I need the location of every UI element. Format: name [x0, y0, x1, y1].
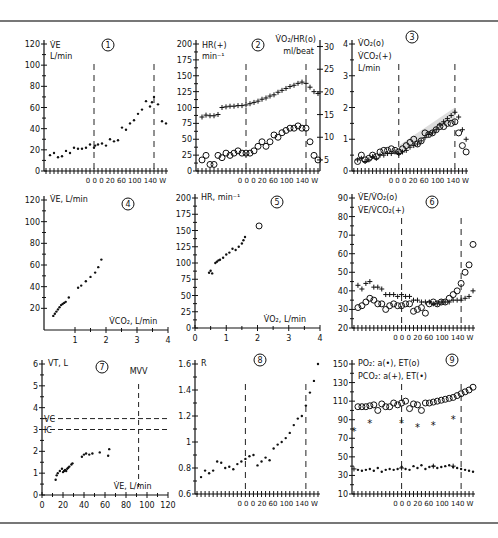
y-axis-unit: L/min: [358, 64, 380, 73]
panel-3: 012340 0 0 20 60 100 140 WV̇O₂(o)V̇CO₂(+…: [343, 31, 469, 185]
y-tick-label: 150: [333, 360, 348, 369]
y-tick-label: 0.6: [178, 490, 191, 499]
y-tick-label: 50: [182, 135, 192, 144]
y-tick-label: 25: [181, 308, 191, 317]
x-axis-workload-label: 0 0 0 20 60 100 140 W: [238, 177, 318, 185]
y-tick-label: 100: [25, 61, 40, 70]
x-tick-label: 1: [224, 334, 229, 343]
y-tick-label: 60: [30, 261, 40, 270]
x-axis-workload-label: 0 0 0 20 60 100 140 W: [393, 334, 473, 342]
y-axis-title: V̇O₂(o): [358, 38, 384, 48]
panel-2: 02550751001251501752000 0 0 20 60 100 14…: [177, 34, 334, 185]
y-tick-label: 100: [176, 259, 191, 268]
x-axis-workload-label: 0 0 0 20 60 100 140 W: [393, 500, 473, 508]
panel-number: 3: [409, 33, 414, 42]
panel-number: 7: [99, 363, 104, 372]
y-tick-label: 100: [177, 104, 192, 113]
panel-7: 0123456020406080100120V̇E, L/minVCICMVVV…: [33, 359, 176, 510]
star-marker: *: [451, 414, 456, 425]
y-tick-label: 0: [33, 491, 38, 500]
y-axis-title: HR, min⁻¹: [201, 193, 240, 202]
y-tick-label: 4: [343, 40, 348, 49]
x-tick-label: 60: [100, 501, 110, 510]
y-tick-label: 60: [338, 250, 348, 259]
x-axis-label: V̇O₂, L/min: [264, 314, 306, 324]
panel-8: 0.60.811.21.41.60 0 0 20 60 100 140 WR8: [178, 354, 320, 508]
y-tick-label: 130: [333, 379, 348, 388]
y-tick-label: 60: [30, 104, 40, 113]
y-tick-label: 50: [338, 268, 348, 277]
right-tick-label: 30: [324, 43, 334, 52]
y-tick-label: 200: [177, 40, 192, 49]
y-tick-label: 40: [30, 283, 40, 292]
ref-label-vc: VC: [44, 415, 55, 424]
y-axis-title: V̇E, L/min: [50, 194, 88, 204]
y-tick-label: 75: [181, 275, 191, 284]
y-tick-label: 70: [338, 231, 348, 240]
y-axis-title: V̇E: [50, 40, 61, 50]
y-axis-title: PO₂: a(•), ET(o): [358, 359, 420, 368]
panel-4: 204060801001201234V̇CO₂, L/minV̇E, L/min…: [25, 194, 171, 345]
y-axis-unit: min⁻¹: [202, 52, 225, 61]
right-tick-label: 25: [324, 65, 334, 74]
y-axis-title: R: [201, 359, 207, 368]
panel-5: 025507510012515017520001234V̇O₂, L/minHR…: [176, 193, 323, 343]
y-tick-label: 0: [35, 167, 40, 176]
y-tick-label: 6: [33, 360, 38, 369]
y-tick-label: 30: [338, 305, 348, 314]
y-tick-label: 1: [186, 438, 191, 447]
star-marker: *: [399, 418, 404, 429]
ref-label-mvv: MVV: [130, 367, 148, 376]
y-tick-label: 50: [338, 453, 348, 462]
y-tick-label: 3: [33, 426, 38, 435]
x-tick-label: 40: [79, 501, 89, 510]
y-tick-label: 70: [338, 434, 348, 443]
x-tick-label: 1: [72, 336, 77, 345]
x-axis-label: V̇E, L/min: [114, 481, 152, 491]
y-tick-label: 125: [177, 88, 192, 97]
panel-number: 4: [125, 200, 130, 209]
y-tick-label: 40: [338, 287, 348, 296]
x-tick-label: 0: [192, 334, 197, 343]
y-tick-label: 125: [176, 243, 191, 252]
y-axis-title: VT, L: [48, 359, 68, 368]
y-tick-label: 120: [25, 196, 40, 205]
y-tick-label: 1.6: [178, 360, 191, 369]
panel-number: 2: [255, 41, 260, 50]
y-tick-label: 2: [33, 447, 38, 456]
star-marker: *: [351, 426, 356, 437]
y-axis-unit: L/min: [50, 52, 72, 61]
x-axis-workload-label: 0 0 0 20 60 100 140 W: [389, 177, 469, 185]
y-axis-title: V̇E/V̇O₂(o): [358, 192, 397, 202]
x-tick-label: 2: [255, 334, 260, 343]
x-tick-label: 3: [286, 334, 291, 343]
x-tick-label: 4: [317, 334, 322, 343]
panel-6: 20304050607080900 0 0 20 60 100 140 WV̇E…: [338, 192, 476, 342]
right-tick-label: 5: [324, 156, 329, 165]
x-axis-workload-label: 0 0 0 20 60 100 140 W: [86, 177, 166, 185]
x-axis-workload-label: 0 0 0 20 60 100 140 W: [237, 500, 317, 508]
star-marker: *: [415, 422, 420, 433]
x-axis-label: V̇CO₂, L/min: [109, 316, 157, 326]
y-tick-label: 200: [176, 194, 191, 203]
y-tick-label: 90: [338, 194, 348, 203]
y-tick-label: 100: [25, 218, 40, 227]
x-tick-label: 2: [103, 336, 108, 345]
y-tick-label: 1: [33, 469, 38, 478]
panel-number: 6: [429, 198, 434, 207]
star-marker: *: [431, 420, 436, 431]
y-tick-label: 175: [177, 56, 192, 65]
x-tick-label: 100: [139, 501, 154, 510]
right-tick-label: 15: [324, 111, 334, 120]
panel-9: 10305070901101301500 0 0 20 60 100 140 W…: [333, 354, 476, 508]
right-tick-label: 20: [324, 88, 334, 97]
x-tick-label: 120: [160, 501, 175, 510]
y-tick-label: 5: [33, 382, 38, 391]
y-tick-label: 1.4: [178, 386, 191, 395]
y-tick-label: 40: [30, 125, 40, 134]
y-axis-title-2: V̇E/V̇CO₂(+): [358, 205, 405, 215]
x-tick-label: 20: [58, 501, 68, 510]
x-tick-label: 80: [121, 501, 131, 510]
shaded-band: [399, 108, 455, 152]
panel-number: 9: [449, 356, 454, 365]
